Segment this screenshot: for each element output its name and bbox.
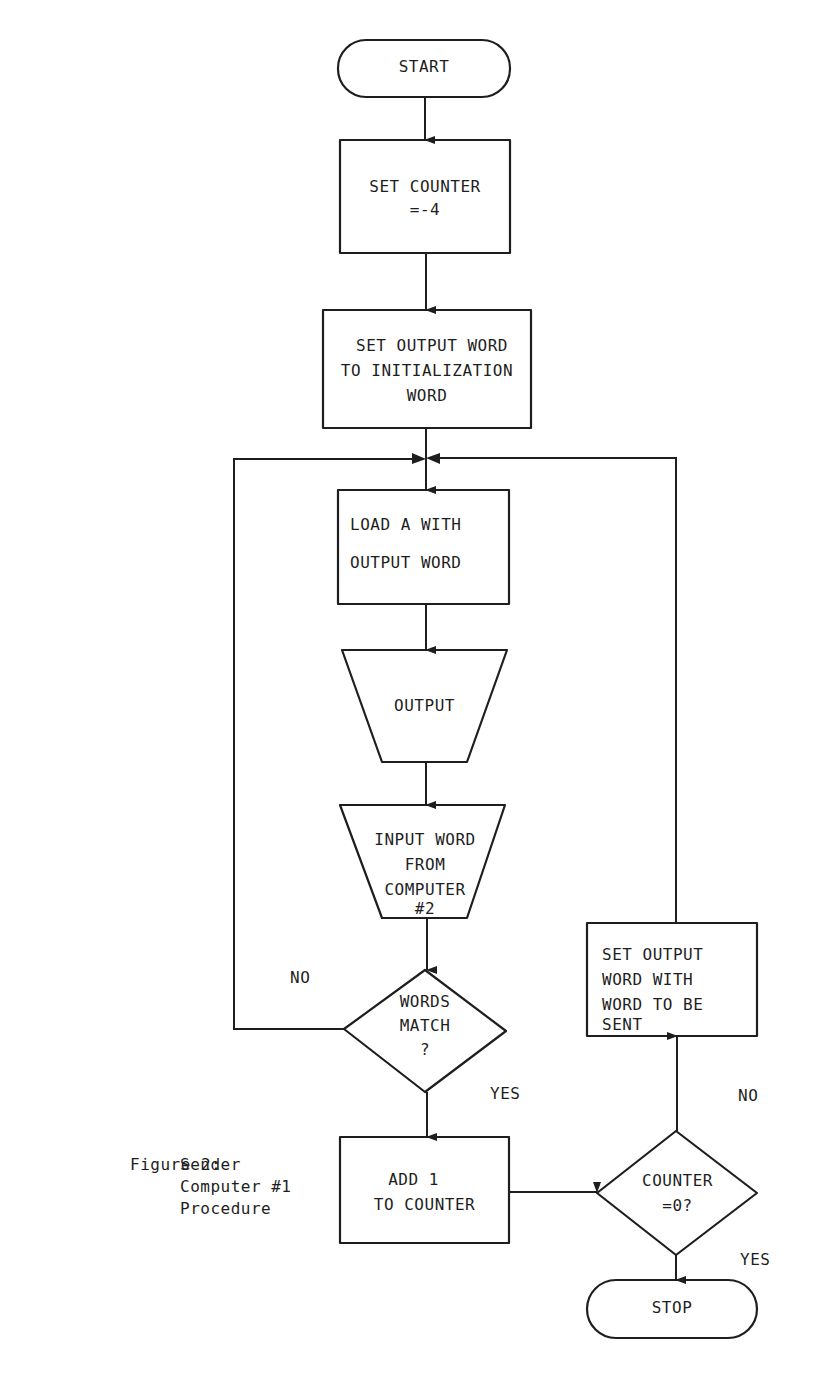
add-one-label: ADD 1 TO COUNTER	[340, 1167, 509, 1217]
junction-arrow-left-icon	[412, 453, 426, 464]
start-label: START	[338, 57, 510, 76]
output-label: OUTPUT	[342, 696, 507, 715]
words-match-label: WORDS MATCH ?	[370, 990, 480, 1062]
set-counter-label: SET COUNTER =-4	[340, 175, 510, 221]
counter-zero-no-label: NO	[738, 1083, 758, 1109]
load-a-label: LOAD A WITH OUTPUT WORD	[350, 506, 500, 582]
set-output-send-label: SET OUTPUT WORD WITH WORD TO BE SENT	[602, 942, 752, 1033]
junction-arrow-right-icon	[426, 453, 440, 464]
words-match-yes-label: YES	[490, 1081, 520, 1107]
input-word-label: INPUT WORD FROM COMPUTER #2	[335, 827, 515, 916]
stop-label: STOP	[587, 1298, 757, 1317]
counter-zero-label: COUNTER =0?	[620, 1168, 735, 1218]
set-output-init-label: SET OUTPUT WORD TO INITIALIZATION WORD	[318, 333, 536, 408]
words-match-no-label: NO	[290, 965, 310, 991]
figure-caption: Sender Computer #1 Procedure	[180, 1154, 291, 1220]
figure-caption-line: Sender	[180, 1154, 291, 1176]
figure-caption-line: Computer #1	[180, 1176, 291, 1198]
figure-caption-line: Procedure	[180, 1198, 291, 1220]
counter-zero-yes-label: YES	[740, 1247, 770, 1273]
